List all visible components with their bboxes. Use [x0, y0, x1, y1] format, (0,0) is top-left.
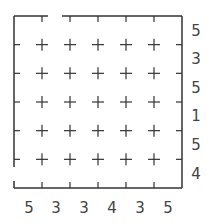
bottom-clue: 5 [24, 201, 34, 216]
bottom-clue: 4 [107, 201, 117, 216]
right-clue: 5 [191, 24, 201, 39]
right-clue: 4 [191, 167, 201, 182]
right-clue: 3 [191, 52, 201, 67]
bottom-clue: 3 [51, 201, 61, 216]
bottom-clue: 3 [135, 201, 145, 216]
right-clue: 1 [191, 109, 201, 124]
right-clue: 5 [191, 138, 201, 153]
right-clue: 5 [191, 81, 201, 96]
puzzle-grid[interactable] [0, 0, 213, 224]
bottom-clue: 3 [79, 201, 89, 216]
bottom-clue: 5 [163, 201, 173, 216]
interior-crosses [36, 39, 160, 166]
